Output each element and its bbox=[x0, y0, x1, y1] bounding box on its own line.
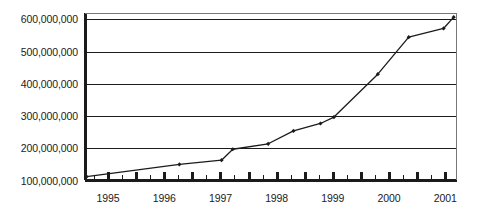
x-axis-label-group: 1995199619971998199920002001 bbox=[0, 0, 481, 219]
x-axis-tick-label: 1998 bbox=[265, 192, 288, 204]
x-axis-tick-label: 1995 bbox=[97, 192, 120, 204]
x-axis-tick-label: 1999 bbox=[321, 192, 344, 204]
x-axis-tick-label: 1997 bbox=[209, 192, 232, 204]
x-axis-tick-label: 2000 bbox=[378, 192, 401, 204]
x-axis-tick-label: 1996 bbox=[153, 192, 176, 204]
x-axis-tick-label: 2001 bbox=[434, 192, 457, 204]
line-chart: 100,000,000200,000,000300,000,000400,000… bbox=[0, 0, 481, 219]
